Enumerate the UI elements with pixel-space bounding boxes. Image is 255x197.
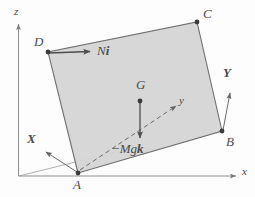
normal-force-scalar: N [97, 43, 106, 58]
point-label-C: C [203, 7, 212, 20]
point-label-B: B [226, 135, 234, 148]
figure-canvas: z x y X Y A B C D G Ni −Mgk [0, 0, 255, 197]
normal-force-unit-vector: i [106, 43, 110, 58]
weight-force-scalar: −Mg [111, 141, 137, 156]
point-dot-G [138, 99, 143, 104]
weight-force-label: −Mgk [111, 142, 144, 155]
diagram-svg [0, 0, 255, 197]
body-X-axis-line [46, 152, 77, 172]
body-X-axis-label: X [27, 132, 36, 145]
point-label-A: A [73, 178, 81, 191]
weight-force-unit-vector: k [137, 141, 144, 156]
body-X-axis [46, 152, 77, 172]
normal-force-label: Ni [97, 44, 109, 57]
body-Y-axis-line [223, 93, 230, 130]
z-axis-label: z [14, 6, 18, 17]
body-Y-axis-label: Y [223, 66, 231, 79]
point-dot-A [76, 171, 81, 176]
point-label-D: D [34, 35, 43, 48]
body-Y-axis [223, 93, 230, 130]
point-label-G: G [136, 78, 145, 91]
body-y-axis-label: y [179, 95, 184, 106]
point-dot-C [195, 20, 200, 25]
point-dot-D [46, 50, 51, 55]
point-dot-B [220, 129, 225, 134]
x-axis-label: x [242, 166, 247, 177]
